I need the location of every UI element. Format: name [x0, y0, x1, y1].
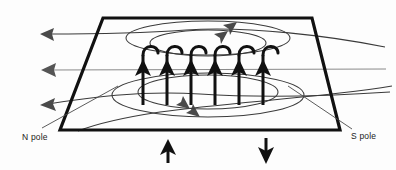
diagram-canvas: N pole S pole — [0, 0, 396, 170]
diagram-background — [0, 0, 396, 170]
magnetic-field-diagram: N pole S pole — [0, 0, 396, 170]
s-pole-label: S pole — [351, 131, 376, 141]
n-pole-label: N pole — [22, 132, 48, 142]
